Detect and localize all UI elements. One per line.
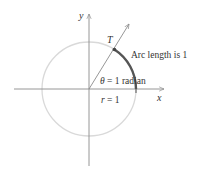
angle-label: θ = 1 radian xyxy=(100,76,146,86)
unit-circle-diagram: y x T Arc length is 1 θ = 1 radian r = 1 xyxy=(0,0,203,178)
point-t xyxy=(113,48,117,52)
x-axis-label: x xyxy=(156,92,162,103)
arc-length-label: Arc length is 1 xyxy=(131,50,187,60)
y-axis-label: y xyxy=(78,10,84,21)
point-t-label: T xyxy=(107,34,114,45)
radius-label: r = 1 xyxy=(101,95,120,105)
